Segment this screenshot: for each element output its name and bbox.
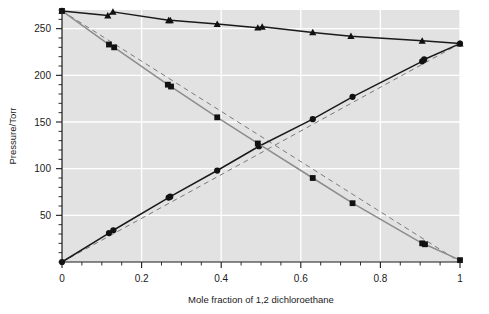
y-tick-label: 150 bbox=[34, 117, 51, 128]
vapor-pressure-chart-figure: 00.20.40.60.8150100150200250 Mole fracti… bbox=[0, 0, 489, 314]
x-tick-label: 0 bbox=[59, 273, 65, 284]
marker-square bbox=[310, 175, 316, 181]
marker-circle bbox=[214, 167, 220, 173]
x-tick-label: 0.2 bbox=[135, 273, 149, 284]
x-tick-label: 0.4 bbox=[214, 273, 228, 284]
y-axis-label: Pressure/Torr bbox=[7, 107, 18, 164]
marker-circle bbox=[310, 116, 316, 122]
x-tick-label: 0.6 bbox=[294, 273, 308, 284]
y-tick-label: 50 bbox=[40, 210, 52, 221]
y-tick-label: 100 bbox=[34, 163, 51, 174]
marker-square bbox=[168, 84, 174, 90]
chart-canvas: 00.20.40.60.8150100150200250 Mole fracti… bbox=[0, 0, 489, 314]
marker-circle bbox=[457, 41, 463, 47]
marker-circle bbox=[167, 194, 173, 200]
marker-circle bbox=[421, 56, 427, 62]
x-tick-label: 1 bbox=[457, 273, 463, 284]
x-axis-label: Mole fraction of 1,2 dichloroethane bbox=[188, 294, 334, 305]
y-tick-label: 250 bbox=[34, 23, 51, 34]
marker-circle bbox=[110, 227, 116, 233]
marker-circle bbox=[349, 94, 355, 100]
marker-square bbox=[350, 200, 356, 206]
y-tick-label: 200 bbox=[34, 70, 51, 81]
x-tick-label: 0.8 bbox=[373, 273, 387, 284]
marker-square bbox=[111, 44, 117, 50]
marker-square bbox=[214, 114, 220, 120]
marker-square bbox=[106, 42, 112, 48]
marker-square bbox=[255, 141, 261, 147]
marker-square bbox=[422, 241, 428, 247]
